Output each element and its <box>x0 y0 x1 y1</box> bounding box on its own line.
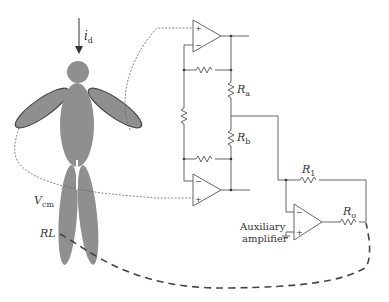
resistor-gain <box>181 108 187 124</box>
torso <box>60 83 94 167</box>
svg-text:−: − <box>296 208 303 217</box>
ro-label: Ro <box>342 205 356 220</box>
resistor-ra <box>228 82 234 98</box>
rl-label: RL <box>39 227 56 240</box>
opamp-bottom: − + <box>193 174 221 206</box>
svg-text:+: + <box>195 24 202 33</box>
ra-label: Ra <box>236 83 250 98</box>
rb-label: Rb <box>236 131 250 146</box>
svg-text:+: + <box>296 228 303 237</box>
opamp-aux: − + <box>294 204 322 240</box>
diagram-canvas: id Vcm RL + − Ra Rb <box>0 0 389 302</box>
svg-text:−: − <box>195 177 202 186</box>
opamp-top: + − <box>193 20 221 52</box>
svg-text:+: + <box>195 195 202 204</box>
head <box>67 61 89 83</box>
resistor-fb-bottom <box>196 156 212 162</box>
current-label: id <box>84 29 93 45</box>
vcm-label: Vcm <box>34 194 54 209</box>
r1-label: R1 <box>301 163 315 178</box>
lead-right-leg <box>60 223 370 288</box>
aux-amp-label-line1: Auxiliary <box>239 221 286 232</box>
lead-left-arm <box>15 128 193 198</box>
resistor-rb <box>228 130 234 146</box>
resistor-fb-top <box>196 67 212 73</box>
aux-amp-label-line2: amplifier <box>242 233 288 244</box>
svg-text:−: − <box>195 41 202 50</box>
current-arrow <box>75 18 83 54</box>
right-leg <box>74 164 102 265</box>
